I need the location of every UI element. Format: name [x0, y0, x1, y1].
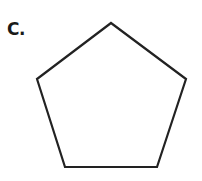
pentagon-diagram: [0, 0, 202, 181]
pentagon-shape: [37, 23, 186, 167]
